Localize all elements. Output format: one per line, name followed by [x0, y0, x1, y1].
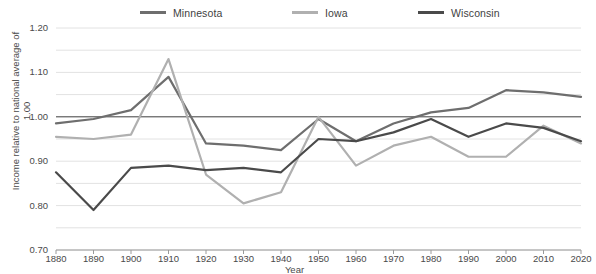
x-tick-1900: 1900 [111, 253, 151, 264]
x-tick-2010: 2010 [524, 253, 564, 264]
x-tick-1880: 1880 [36, 253, 76, 264]
x-tick-1930: 1930 [224, 253, 264, 264]
x-tick-1980: 1980 [411, 253, 451, 264]
x-tick-1990: 1990 [449, 253, 489, 264]
series-line-wisconsin [56, 119, 581, 210]
x-tick-1950: 1950 [299, 253, 339, 264]
data-series [56, 59, 581, 210]
x-tick-1920: 1920 [186, 253, 226, 264]
x-tick-1960: 1960 [336, 253, 376, 264]
y-axis-title: Income relative to national average of 1… [10, 29, 32, 194]
x-tick-1890: 1890 [74, 253, 114, 264]
y-tick-0-80: 0.80 [14, 200, 48, 211]
x-tick-1970: 1970 [374, 253, 414, 264]
x-tick-1940: 1940 [261, 253, 301, 264]
series-line-iowa [56, 59, 581, 203]
x-tick-2000: 2000 [486, 253, 526, 264]
x-axis-title: Year [0, 264, 589, 274]
x-tick-1910: 1910 [149, 253, 189, 264]
x-tick-2020: 2020 [561, 253, 596, 264]
